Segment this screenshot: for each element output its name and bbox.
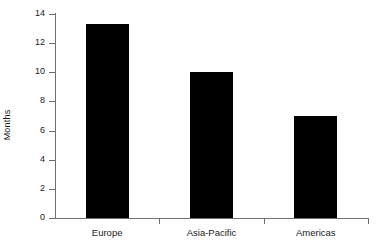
y-tick-label: 2 bbox=[0, 183, 45, 193]
bar-asia-pacific bbox=[190, 72, 233, 218]
y-tick-mark bbox=[49, 131, 55, 132]
y-tick-label: 12 bbox=[0, 37, 45, 47]
y-tick-mark bbox=[49, 101, 55, 102]
x-axis-end-tick bbox=[368, 219, 369, 224]
bar-chart: Months 02468101214 EuropeAsia-PacificAme… bbox=[0, 0, 380, 250]
x-tick-mark bbox=[159, 219, 160, 224]
category-label: Asia-Pacific bbox=[187, 227, 237, 238]
y-tick-mark bbox=[49, 72, 55, 73]
category-label: Europe bbox=[92, 227, 123, 238]
x-axis-line bbox=[55, 218, 369, 219]
y-tick-mark bbox=[49, 43, 55, 44]
y-tick-label: 8 bbox=[0, 95, 45, 105]
y-tick-mark bbox=[49, 14, 55, 15]
y-tick-label: 10 bbox=[0, 66, 45, 76]
y-tick-mark bbox=[49, 218, 55, 219]
y-tick-label: 14 bbox=[0, 8, 45, 18]
y-axis-line bbox=[55, 13, 56, 219]
x-tick-mark bbox=[264, 219, 265, 224]
category-label: Americas bbox=[296, 227, 336, 238]
y-tick-label: 6 bbox=[0, 125, 45, 135]
y-tick-label: 4 bbox=[0, 154, 45, 164]
y-tick-label: 0 bbox=[0, 212, 45, 222]
y-tick-mark bbox=[49, 189, 55, 190]
bar-americas bbox=[294, 116, 337, 218]
y-tick-mark bbox=[49, 160, 55, 161]
bar-europe bbox=[86, 24, 129, 218]
